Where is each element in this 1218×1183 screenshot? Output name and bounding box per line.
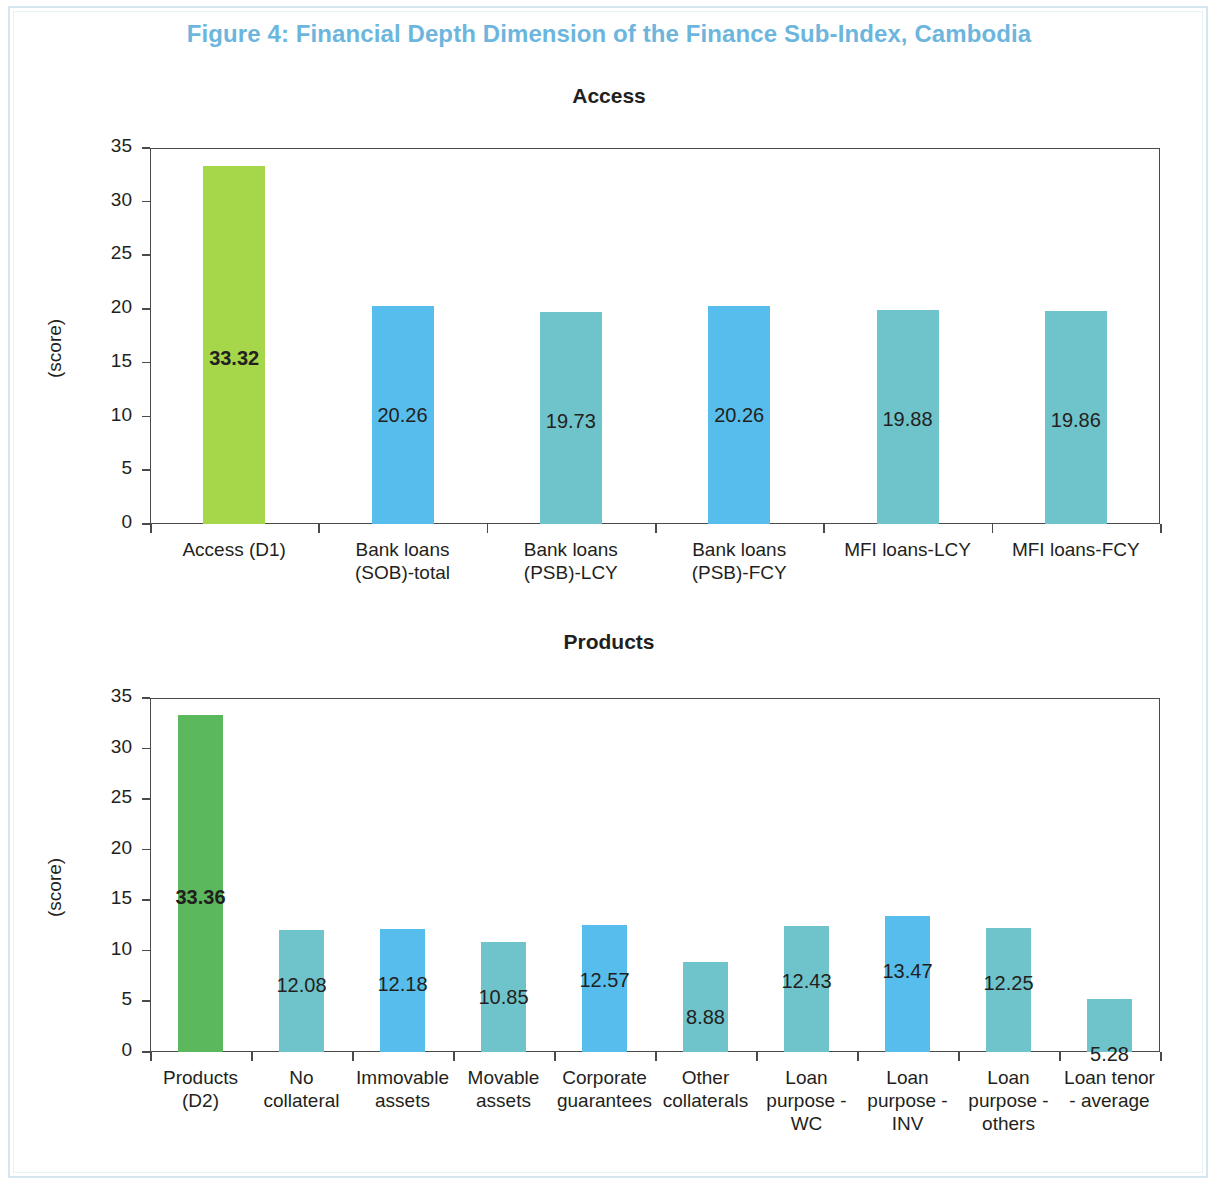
chart-panel-products: Products (score) 0510152025303533.36Prod… <box>0 620 1218 1180</box>
y-axis-tick-label-products: 10 <box>86 938 132 960</box>
y-axis-tick-products <box>142 798 150 800</box>
x-axis-tick-access-1 <box>318 524 320 533</box>
x-axis-tick-access-5 <box>992 524 994 533</box>
x-axis-label-products-6: Loanpurpose -WC <box>750 1066 863 1136</box>
y-axis-tick-products <box>142 697 150 699</box>
y-axis-tick-access <box>142 362 150 364</box>
y-axis-tick-label-products: 15 <box>86 887 132 909</box>
y-axis-tick-access <box>142 469 150 471</box>
y-axis-tick-products <box>142 950 150 952</box>
x-axis-label-products-7: Loanpurpose -INV <box>851 1066 964 1136</box>
bar-value-label-access-4: 19.88 <box>869 408 947 431</box>
y-axis-tick-label-access: 35 <box>86 135 132 157</box>
x-axis-label-access-1: Bank loans(SOB)-total <box>312 538 492 584</box>
x-axis-tick-products-6 <box>756 1052 758 1061</box>
bar-value-label-access-5: 19.86 <box>1037 409 1115 432</box>
bar-value-label-products-2: 12.18 <box>364 973 442 996</box>
bar-value-label-access-3: 20.26 <box>700 404 778 427</box>
y-axis-tick-label-products: 30 <box>86 736 132 758</box>
y-axis-tick-products <box>142 899 150 901</box>
bar-value-label-products-4: 12.57 <box>566 969 644 992</box>
y-axis-tick-label-access: 0 <box>86 511 132 533</box>
x-axis-tick-products-4 <box>554 1052 556 1061</box>
bar-value-label-access-2: 19.73 <box>532 410 610 433</box>
x-axis-label-products-2: Immovableassets <box>346 1066 459 1112</box>
x-axis-tick-access-end <box>1160 524 1162 533</box>
y-axis-tick-label-access: 15 <box>86 350 132 372</box>
y-axis-tick-access <box>142 308 150 310</box>
bar-access-0 <box>203 166 265 524</box>
x-axis-label-products-8: Loanpurpose -others <box>952 1066 1065 1136</box>
x-axis-tick-products-5 <box>655 1052 657 1061</box>
x-axis-label-access-4: MFI loans-LCY <box>817 538 997 561</box>
bar-value-label-products-6: 12.43 <box>768 970 846 993</box>
x-axis-tick-access-3 <box>655 524 657 533</box>
x-axis-tick-products-7 <box>857 1052 859 1061</box>
y-axis-tick-label-products: 20 <box>86 837 132 859</box>
y-axis-tick-access <box>142 523 150 525</box>
x-axis-tick-products-9 <box>1059 1052 1061 1061</box>
x-axis-label-products-9: Loan tenor- average <box>1053 1066 1166 1112</box>
x-axis-tick-products-end <box>1160 1052 1162 1061</box>
y-axis-title-access: (score) <box>44 319 66 378</box>
bar-value-label-products-0: 33.36 <box>162 886 240 909</box>
x-axis-tick-products-1 <box>251 1052 253 1061</box>
bar-products-7 <box>885 916 930 1052</box>
panel-title-products: Products <box>0 630 1218 654</box>
y-axis-tick-access <box>142 416 150 418</box>
y-axis-tick-label-products: 35 <box>86 685 132 707</box>
x-axis-tick-access-0 <box>150 524 152 533</box>
y-axis-tick-label-products: 0 <box>86 1039 132 1061</box>
plot-area-access <box>150 148 1160 524</box>
chart-panel-access: Access (score) 0510152025303533.32Access… <box>0 80 1218 620</box>
x-axis-tick-access-4 <box>823 524 825 533</box>
y-axis-tick-products <box>142 1051 150 1053</box>
y-axis-tick-products <box>142 748 150 750</box>
bar-value-label-products-7: 13.47 <box>869 960 947 983</box>
y-axis-tick-label-products: 5 <box>86 988 132 1010</box>
bar-value-label-products-1: 12.08 <box>263 974 341 997</box>
bar-value-label-access-1: 20.26 <box>364 404 442 427</box>
x-axis-label-products-4: Corporateguarantees <box>548 1066 661 1112</box>
x-axis-label-access-2: Bank loans(PSB)-LCY <box>481 538 661 584</box>
x-axis-label-access-0: Access (D1) <box>144 538 324 561</box>
x-axis-label-access-5: MFI loans-FCY <box>986 538 1166 561</box>
bar-value-label-products-8: 12.25 <box>970 972 1048 995</box>
x-axis-tick-products-3 <box>453 1052 455 1061</box>
bar-value-label-products-9: 5.28 <box>1071 1043 1149 1066</box>
x-axis-tick-access-2 <box>487 524 489 533</box>
y-axis-title-products: (score) <box>44 858 66 917</box>
y-axis-tick-label-access: 10 <box>86 404 132 426</box>
x-axis-label-products-0: Products(D2) <box>144 1066 257 1112</box>
figure-page: Figure 4: Financial Depth Dimension of t… <box>0 0 1218 1183</box>
y-axis-tick-access <box>142 147 150 149</box>
x-axis-label-products-3: Movableassets <box>447 1066 560 1112</box>
y-axis-tick-label-access: 30 <box>86 189 132 211</box>
y-axis-tick-access <box>142 201 150 203</box>
y-axis-tick-products <box>142 1000 150 1002</box>
figure-title: Figure 4: Financial Depth Dimension of t… <box>0 20 1218 48</box>
x-axis-tick-products-0 <box>150 1052 152 1061</box>
bar-value-label-access-0: 33.32 <box>195 347 273 370</box>
y-axis-tick-label-access: 20 <box>86 296 132 318</box>
x-axis-label-products-1: Nocollateral <box>245 1066 358 1112</box>
bar-value-label-products-3: 10.85 <box>465 986 543 1009</box>
x-axis-tick-products-2 <box>352 1052 354 1061</box>
y-axis-tick-products <box>142 849 150 851</box>
y-axis-tick-label-products: 25 <box>86 786 132 808</box>
y-axis-tick-label-access: 5 <box>86 457 132 479</box>
y-axis-tick-access <box>142 254 150 256</box>
panel-title-access: Access <box>0 84 1218 108</box>
x-axis-label-access-3: Bank loans(PSB)-FCY <box>649 538 829 584</box>
y-axis-tick-label-access: 25 <box>86 242 132 264</box>
x-axis-tick-products-8 <box>958 1052 960 1061</box>
bar-value-label-products-5: 8.88 <box>667 1006 745 1029</box>
x-axis-label-products-5: Othercollaterals <box>649 1066 762 1112</box>
bar-products-0 <box>178 715 223 1052</box>
